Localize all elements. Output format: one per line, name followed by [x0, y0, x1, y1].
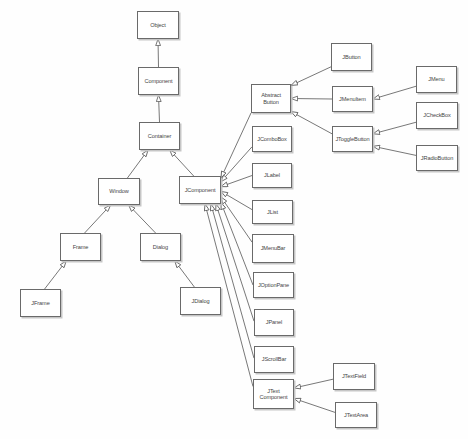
- class-box-jtextcomponent: JText Component: [253, 379, 294, 409]
- class-label: JMenuBar: [259, 245, 288, 252]
- class-box-jdialog: JDialog: [180, 287, 221, 315]
- class-box-jcheckbox: JCheckBox: [416, 102, 458, 129]
- class-label: JOptionPane: [256, 282, 291, 289]
- class-box-object: Object: [137, 11, 179, 39]
- class-label: JMenu: [426, 76, 446, 83]
- class-box-jframe: JFrame: [20, 289, 61, 317]
- class-box-dialog: Dialog: [140, 233, 181, 261]
- class-label: JComponent: [183, 187, 218, 194]
- class-label: JToggleButton: [333, 136, 371, 143]
- class-label: Component: [142, 78, 174, 85]
- class-label: JPanel: [264, 319, 285, 326]
- class-label: Dialog: [151, 244, 170, 251]
- class-box-jtextfield: JTextField: [333, 363, 375, 390]
- class-label: JDialog: [190, 298, 212, 305]
- class-box-jpanel: JPanel: [254, 309, 294, 336]
- class-box-jradiobutton: JRadioButton: [416, 145, 458, 171]
- class-box-jmenu: JMenu: [416, 66, 457, 93]
- class-box-joptionpane: JOptionPane: [253, 272, 294, 298]
- class-box-frame: Frame: [60, 233, 101, 261]
- class-label: JRadioButton: [419, 155, 455, 162]
- class-box-jbutton: JButton: [331, 43, 372, 71]
- class-label: JMenuItem: [337, 96, 368, 103]
- class-box-jmenuitem: JMenuItem: [332, 86, 373, 112]
- class-label: Container: [146, 133, 173, 140]
- class-label: Object: [148, 22, 168, 29]
- class-box-jscrollbar: JScrollBar: [254, 346, 294, 373]
- class-box-jcombobox: JComboBox: [252, 126, 292, 152]
- class-label: JLabel: [262, 172, 282, 179]
- class-label: JTextArea: [342, 412, 370, 419]
- class-box-jtogglebutton: JToggleButton: [332, 126, 373, 152]
- class-label: JList: [265, 209, 280, 216]
- class-box-component: Component: [138, 67, 179, 95]
- class-box-jmenubar: JMenuBar: [252, 234, 294, 263]
- class-box-jlabel: JLabel: [252, 163, 292, 188]
- class-label: JComboBox: [255, 136, 289, 143]
- class-label: JTextField: [340, 373, 368, 380]
- class-box-jtextarea: JTextArea: [335, 402, 377, 428]
- class-box-jcomponent: JComponent: [179, 176, 221, 204]
- class-label: JScrollBar: [260, 356, 289, 363]
- class-label: Window: [107, 188, 130, 195]
- node-layer: ObjectComponentContainerWindowJComponent…: [0, 0, 468, 439]
- class-box-jlist: JList: [252, 200, 293, 224]
- class-label: JButton: [340, 54, 362, 61]
- class-label: JCheckBox: [421, 112, 452, 119]
- class-label: Abstract Button: [252, 92, 290, 105]
- class-label: Frame: [71, 244, 91, 251]
- uml-class-diagram: ObjectComponentContainerWindowJComponent…: [0, 0, 468, 439]
- class-label: JFrame: [29, 300, 51, 307]
- class-label: JText Component: [254, 388, 293, 401]
- class-box-abstractbutton: Abstract Button: [251, 84, 291, 113]
- class-box-container: Container: [139, 122, 180, 150]
- class-box-window: Window: [98, 178, 140, 205]
